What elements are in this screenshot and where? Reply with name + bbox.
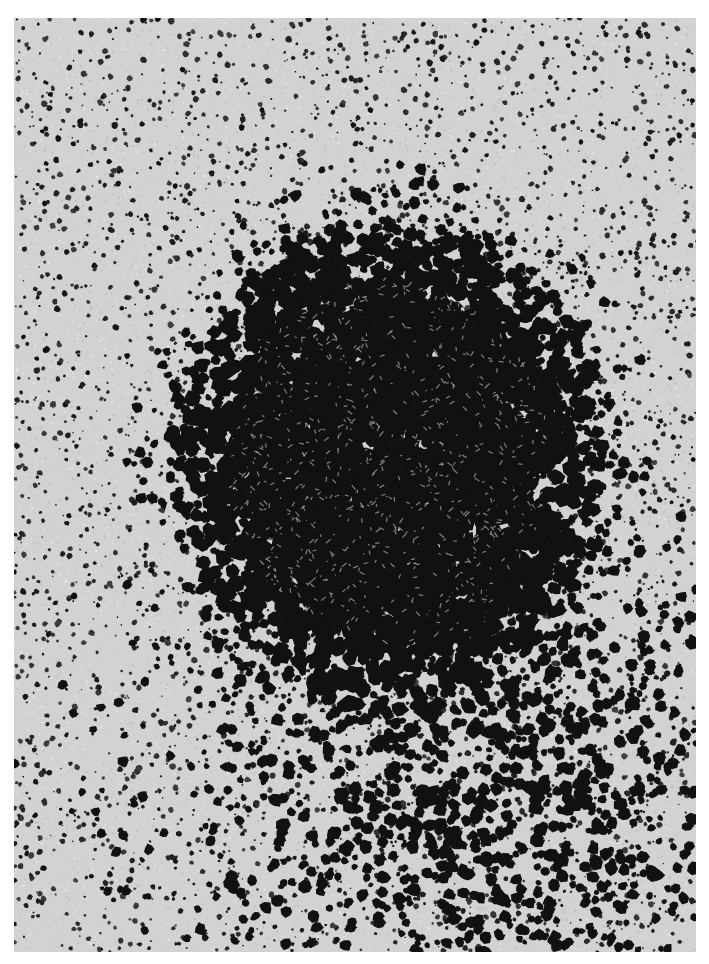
micrograph-frame	[14, 18, 696, 952]
grain-cluster-image	[14, 18, 696, 952]
